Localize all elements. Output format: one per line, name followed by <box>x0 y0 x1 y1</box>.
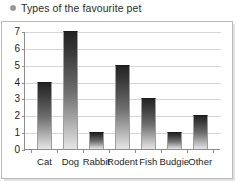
y-tick-mark <box>22 116 25 117</box>
y-tick-label: 7 <box>6 27 20 37</box>
bar <box>63 31 78 149</box>
x-tick-mark <box>213 150 214 153</box>
x-category-label: Dog <box>62 156 79 167</box>
bar <box>193 115 208 149</box>
y-tick-label: 5 <box>6 61 20 71</box>
gridline <box>25 32 221 33</box>
y-tick-label: 3 <box>6 94 20 104</box>
x-category-label: Rabbit <box>83 156 110 167</box>
chart-title-row: Types of the favourite pet <box>0 0 142 16</box>
frame-shadow-bottom <box>4 179 235 181</box>
y-tick-mark <box>22 32 25 33</box>
plot-area: CatDogRabbitRodentFishBudgieOther <box>24 32 220 150</box>
x-category-label: Other <box>188 156 212 167</box>
x-tick-mark <box>135 150 136 153</box>
frame-shadow-right <box>233 24 235 180</box>
x-tick-mark <box>31 150 32 153</box>
bar-chart-widget: Types of the favourite pet 01234567 CatD… <box>0 0 237 181</box>
y-tick-mark <box>22 150 25 151</box>
bullet-dot-icon <box>10 5 16 11</box>
x-category-label: Rodent <box>107 156 138 167</box>
x-tick-mark <box>187 150 188 153</box>
x-tick-mark <box>83 150 84 153</box>
x-category-label: Fish <box>139 156 157 167</box>
gridline <box>25 49 221 50</box>
bar <box>141 98 156 149</box>
bar <box>37 82 52 149</box>
bar <box>89 132 104 149</box>
x-category-label: Budgie <box>159 156 189 167</box>
y-tick-mark <box>22 66 25 67</box>
bar <box>115 65 130 149</box>
y-tick-mark <box>22 83 25 84</box>
y-tick-label: 1 <box>6 128 20 138</box>
y-tick-mark <box>22 133 25 134</box>
x-tick-mark <box>109 150 110 153</box>
y-tick-mark <box>22 99 25 100</box>
y-axis-labels: 01234567 <box>4 32 20 150</box>
x-tick-mark <box>57 150 58 153</box>
y-tick-label: 2 <box>6 111 20 121</box>
x-tick-mark <box>161 150 162 153</box>
y-tick-label: 6 <box>6 44 20 54</box>
bar <box>167 132 182 149</box>
y-tick-label: 4 <box>6 78 20 88</box>
y-tick-mark <box>22 49 25 50</box>
chart-frame: 01234567 CatDogRabbitRodentFishBudgieOth… <box>1 21 233 179</box>
y-tick-label: 0 <box>6 145 20 155</box>
x-category-label: Cat <box>37 156 52 167</box>
chart-title: Types of the favourite pet <box>21 2 142 14</box>
